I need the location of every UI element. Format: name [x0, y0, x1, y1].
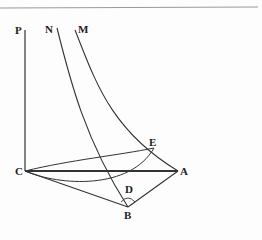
- label-N: N: [45, 23, 53, 35]
- label-C: C: [15, 165, 23, 177]
- label-B: B: [124, 209, 132, 221]
- label-M: M: [78, 23, 89, 35]
- geometry-diagram: P N M E C A D B: [0, 0, 262, 240]
- label-P: P: [15, 24, 22, 36]
- label-E: E: [149, 136, 156, 148]
- background: [0, 0, 262, 240]
- label-A: A: [180, 165, 188, 177]
- label-D: D: [125, 183, 133, 195]
